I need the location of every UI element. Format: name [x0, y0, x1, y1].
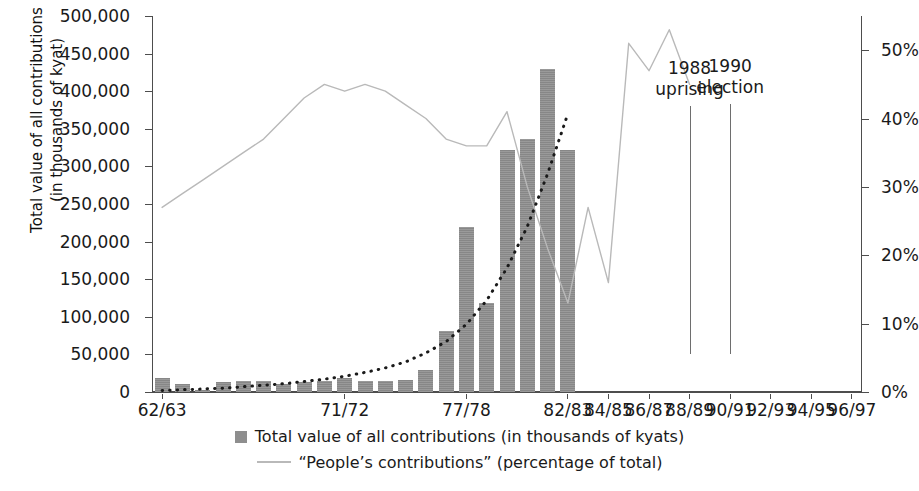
y-tick-mark-left: [145, 91, 152, 92]
x-tick-mark: [811, 394, 812, 399]
y-tick-label-left: 200,000: [60, 232, 130, 252]
y-tick-mark-left: [145, 16, 152, 17]
y-tick-label-left: 400,000: [60, 81, 130, 101]
y-tick-mark-left: [145, 242, 152, 243]
x-tick-mark: [344, 394, 345, 399]
y-tick-mark-left: [145, 129, 152, 130]
y-tick-mark-right: [862, 324, 869, 325]
chart-container: Total value of all contributions (in tho…: [0, 0, 919, 491]
x-tick-mark: [851, 394, 852, 399]
x-tick-label: 77/78: [442, 400, 491, 420]
y-tick-label-right: 30%: [881, 177, 919, 197]
y-tick-label-left: 100,000: [60, 307, 130, 327]
line-swatch-icon: [257, 461, 291, 463]
y-tick-mark-left: [145, 204, 152, 205]
x-tick-label: 62/63: [138, 400, 187, 420]
x-tick-mark: [730, 394, 731, 399]
annotation-label-election: 1990 election: [696, 56, 764, 98]
y-tick-label-right: 50%: [881, 40, 919, 60]
x-tick-mark: [608, 394, 609, 399]
annotation-leader-line-election: [730, 104, 731, 354]
x-tick-label: 71/72: [320, 400, 369, 420]
y-tick-label-left: 500,000: [60, 6, 130, 26]
y-tick-label-left: 350,000: [60, 119, 130, 139]
y-tick-mark-left: [145, 354, 152, 355]
y-tick-label-left: 50,000: [71, 344, 130, 364]
y-tick-label-right: 0%: [881, 382, 908, 402]
y-tick-label-left: 300,000: [60, 156, 130, 176]
y-tick-mark-left: [145, 392, 152, 393]
y-tick-mark-left: [145, 317, 152, 318]
y-tick-label-right: 20%: [881, 245, 919, 265]
x-tick-mark: [770, 394, 771, 399]
x-tick-mark: [567, 394, 568, 399]
y-tick-label-left: 250,000: [60, 194, 130, 214]
y-tick-label-right: 40%: [881, 109, 919, 129]
annotation-leader-line-uprising: [690, 106, 691, 354]
legend: Total value of all contributions (in tho…: [0, 424, 919, 476]
y-tick-label-left: 0: [119, 382, 130, 402]
x-tick-label: 96/97: [827, 400, 876, 420]
y-axis-left-ticks: 500,000450,000400,000350,000300,000250,0…: [0, 0, 142, 491]
legend-entry-line: “People’s contributions” (percentage of …: [0, 450, 919, 476]
y-tick-mark-left: [145, 54, 152, 55]
legend-bar-label: Total value of all contributions (in tho…: [255, 427, 684, 446]
y-tick-label-left: 450,000: [60, 44, 130, 64]
x-tick-mark: [162, 394, 163, 399]
y-tick-label-right: 10%: [881, 314, 919, 334]
legend-entry-bars: Total value of all contributions (in tho…: [0, 424, 919, 450]
y-tick-mark-right: [862, 119, 869, 120]
bar-swatch-icon: [235, 431, 247, 443]
y-tick-mark-right: [862, 187, 869, 188]
x-tick-mark: [689, 394, 690, 399]
y-tick-mark-right: [862, 50, 869, 51]
legend-line-label: “People’s contributions” (percentage of …: [299, 453, 663, 472]
y-tick-mark-right: [862, 255, 869, 256]
y-tick-mark-left: [145, 279, 152, 280]
y-tick-mark-right: [862, 392, 869, 393]
x-tick-mark: [649, 394, 650, 399]
y-tick-label-left: 150,000: [60, 269, 130, 289]
y-tick-mark-left: [145, 166, 152, 167]
x-tick-mark: [466, 394, 467, 399]
